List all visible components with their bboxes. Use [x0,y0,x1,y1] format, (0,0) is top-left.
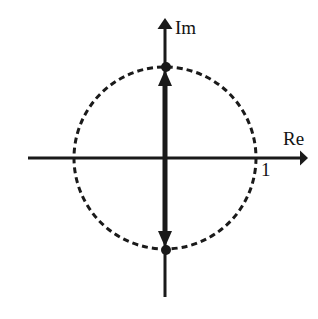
imaginary-axis-label: Im [175,18,196,37]
real-axis-arrowhead-icon [300,151,308,166]
real-axis-label: Re [283,129,304,148]
imaginary-axis-arrowhead-icon [158,18,173,29]
double-arrow-down-arrowhead-icon [158,231,172,247]
double-arrow-up-arrowhead-icon [158,70,172,86]
complex-plane-figure: Im Re 1 [0,0,318,319]
pole-marker-lower [161,245,171,255]
unit-tick-label: 1 [261,160,271,179]
pole-marker-upper [161,62,171,72]
